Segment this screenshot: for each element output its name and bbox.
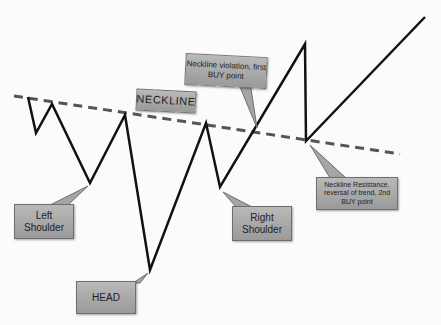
first-buy-callout: Neckline violation, first BUY point (184, 53, 268, 89)
left-shoulder-tail (50, 186, 88, 205)
right-shoulder-callout: Right Shoulder (232, 206, 292, 241)
second-buy-callout: Neckline Resistance, reversal of trend, … (316, 177, 398, 210)
diagram: NECKLINE Neckline violation, first BUY p… (0, 0, 441, 325)
chart-lines (0, 0, 441, 325)
neckline-label: NECKLINE (135, 88, 196, 113)
first-buy-tail (238, 82, 257, 128)
second-buy-tail (310, 145, 346, 178)
left-shoulder-callout: Left Shoulder (14, 204, 74, 239)
right-shoulder-tail (223, 192, 252, 207)
head-callout: HEAD (76, 281, 136, 314)
